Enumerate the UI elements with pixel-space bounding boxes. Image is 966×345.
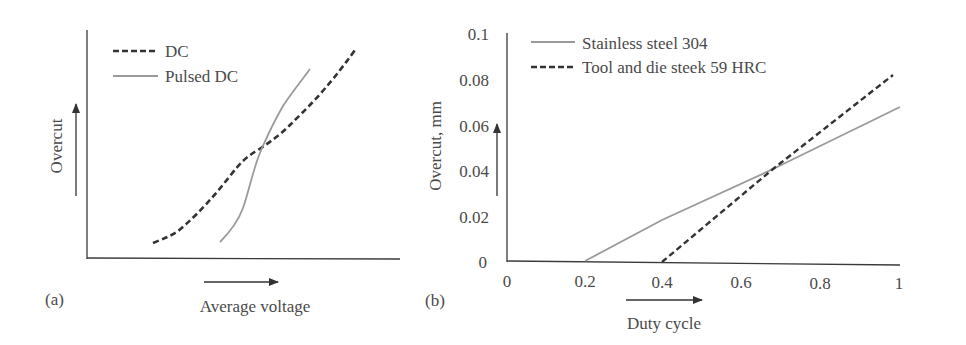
y-tick: 0.04 <box>459 162 489 181</box>
panel-b-x-axis <box>507 261 900 265</box>
y-tick: 0.1 <box>468 25 489 44</box>
panel-a-x-label: Average voltage <box>200 297 311 316</box>
x-tick: 1 <box>895 274 904 293</box>
legend-tool-steel-label: Tool and die steek 59 HRC <box>582 58 766 77</box>
panel-a-y-label: Overcut <box>47 118 66 173</box>
legend-pulsed-dc-label: Pulsed DC <box>165 67 238 86</box>
panel-a-x-axis <box>87 258 400 259</box>
panel-b-y-ticks: 0 0.02 0.04 0.06 0.08 0.1 <box>459 25 489 272</box>
panel-b: 0 0.02 0.04 0.06 0.08 0.1 0 0.2 0.4 0.6 … <box>425 25 903 333</box>
series-tool-steel-line <box>662 75 893 262</box>
figure: Overcut Average voltage (a) DC Pulsed DC… <box>0 0 966 345</box>
panel-b-x-label: Duty cycle <box>627 314 701 333</box>
x-tick: 0.6 <box>730 273 751 292</box>
x-tick: 0.8 <box>809 274 830 293</box>
x-tick: 0 <box>503 272 512 291</box>
y-tick: 0.08 <box>459 71 489 90</box>
x-tick: 0.4 <box>651 273 673 292</box>
legend-stainless-label: Stainless steel 304 <box>582 34 708 53</box>
panel-b-x-ticks: 0 0.2 0.4 0.6 0.8 1 <box>503 272 904 293</box>
series-pulsed-dc-line <box>220 69 310 242</box>
x-tick: 0.2 <box>574 272 595 291</box>
panel-b-label: (b) <box>425 291 445 310</box>
panel-a-label: (a) <box>45 290 64 309</box>
y-tick: 0.06 <box>459 117 489 136</box>
y-tick: 0 <box>479 253 488 272</box>
panel-b-y-label: Overcut, mm <box>426 101 445 191</box>
y-tick: 0.02 <box>459 208 489 227</box>
panel-a: Overcut Average voltage (a) DC Pulsed DC <box>45 30 400 316</box>
legend-dc-label: DC <box>165 42 189 61</box>
series-stainless-line <box>585 107 900 261</box>
